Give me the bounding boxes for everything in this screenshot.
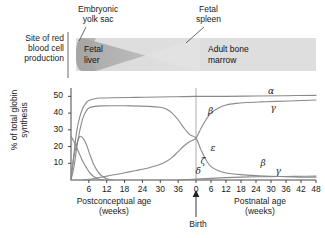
figure-globin-switching: Embryonic yolk sac Fetal spleen Site of … <box>0 0 325 238</box>
x-tick-label: 18 <box>117 184 133 194</box>
callout-embryonic-yolk-sac: Embryonic yolk sac <box>78 4 118 24</box>
x-tick-label: 24 <box>134 184 150 194</box>
curve-epsilon <box>71 136 113 180</box>
x-tick-label: 24 <box>248 184 264 194</box>
band-label-adult-bone-marrow: Adult bone marrow <box>208 44 249 65</box>
callout-fetal-spleen: Fetal spleen <box>196 4 221 24</box>
x-tick-label: 18 <box>233 184 249 194</box>
annotation-delta: δ <box>196 166 201 176</box>
y-tick-label: 30 <box>45 124 63 134</box>
y-tick-label: 40 <box>45 107 63 117</box>
x-tick-label: 30 <box>263 184 279 194</box>
x-axis-title-prenatal: Postconceptual age (weeks) <box>46 196 182 216</box>
site-of-production-label: Site of red blood cell production <box>2 33 64 63</box>
annotation-beta-postnatal: β <box>208 106 213 116</box>
y-axis-title: % of total globin synthesis <box>9 65 29 175</box>
annotation-epsilon: ε <box>211 143 216 153</box>
birth-label: Birth <box>178 219 218 229</box>
x-tick-label: 36 <box>278 184 294 194</box>
x-tick-label: 12 <box>218 184 234 194</box>
x-tick-label: 48 <box>308 184 324 194</box>
x-tick-label: 6 <box>203 184 219 194</box>
annotation-beta-prenatal: β <box>261 158 266 168</box>
y-tick-label: 50 <box>45 90 63 100</box>
annotation-gamma-prenatal: γ <box>271 103 276 113</box>
x-axis-title-postnatal: Postnatal age (weeks) <box>208 196 312 216</box>
x-tick-label: 6 <box>81 184 97 194</box>
curve-delta <box>178 176 316 180</box>
x-tick-label: 30 <box>152 184 168 194</box>
x-tick-label: 12 <box>99 184 115 194</box>
x-tick-label: 36 <box>170 184 186 194</box>
y-tick-label: 10 <box>45 157 63 167</box>
annotation-zeta: ζ <box>201 156 206 166</box>
annotation-gamma-postnatal: γ <box>276 166 281 176</box>
annotation-alpha: α <box>268 86 274 96</box>
y-tick-label: 20 <box>45 141 63 151</box>
band-label-fetal-liver: Fetal liver <box>84 44 103 65</box>
x-tick-label: 42 <box>293 184 309 194</box>
x-tick-label: 0 <box>188 184 204 194</box>
